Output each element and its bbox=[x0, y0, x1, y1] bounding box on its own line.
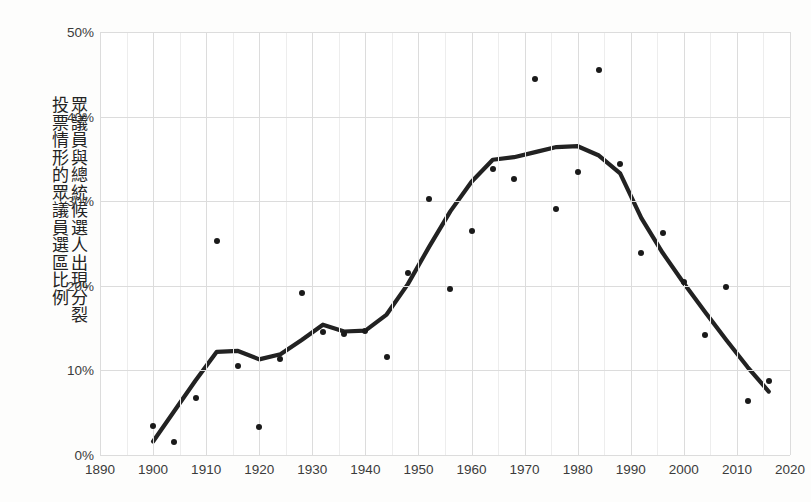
gridline-vertical bbox=[259, 32, 260, 455]
x-axis-tick-label: 1940 bbox=[350, 462, 380, 477]
gridline-vertical bbox=[153, 32, 154, 455]
gridline-vertical-minor bbox=[551, 32, 552, 455]
gridline-vertical bbox=[418, 32, 419, 455]
data-point bbox=[660, 230, 666, 236]
data-point bbox=[745, 398, 751, 404]
gridline-vertical bbox=[737, 32, 738, 455]
data-point bbox=[214, 238, 220, 244]
gridline-vertical bbox=[684, 32, 685, 455]
gridline-vertical-minor bbox=[339, 32, 340, 455]
gridline-vertical-minor bbox=[180, 32, 181, 455]
gridline-vertical-minor bbox=[710, 32, 711, 455]
data-point bbox=[426, 196, 432, 202]
chart-container: 眾議員與總統候選人出現分裂 投票情形的眾議員選區比例 0%10%20%30%40… bbox=[0, 0, 811, 502]
gridline-vertical-minor bbox=[392, 32, 393, 455]
x-axis-tick-label: 1950 bbox=[403, 462, 433, 477]
x-axis-tick-label: 1980 bbox=[563, 462, 593, 477]
y-axis-tick-labels: 0%10%20%30%40%50% bbox=[0, 0, 94, 502]
gridline-horizontal bbox=[100, 201, 790, 202]
gridline-vertical bbox=[312, 32, 313, 455]
data-point bbox=[299, 290, 305, 296]
x-axis-tick-label: 1930 bbox=[297, 462, 327, 477]
y-axis-tick-label: 50% bbox=[67, 25, 94, 40]
data-point bbox=[702, 332, 708, 338]
plot-area bbox=[100, 32, 790, 455]
gridline-horizontal bbox=[100, 370, 790, 371]
y-axis-tick-label: 10% bbox=[67, 363, 94, 378]
gridline-vertical bbox=[100, 32, 101, 455]
y-axis-tick-label: 30% bbox=[67, 194, 94, 209]
gridline-vertical bbox=[525, 32, 526, 455]
gridline-vertical-minor bbox=[498, 32, 499, 455]
gridline-vertical bbox=[578, 32, 579, 455]
gridline-vertical-minor bbox=[763, 32, 764, 455]
x-axis-tick-label: 1960 bbox=[457, 462, 487, 477]
gridline-vertical-minor bbox=[657, 32, 658, 455]
x-axis-tick-label: 1890 bbox=[85, 462, 115, 477]
gridline-vertical bbox=[472, 32, 473, 455]
data-point bbox=[405, 270, 411, 276]
gridline-vertical bbox=[631, 32, 632, 455]
data-point bbox=[384, 354, 390, 360]
y-axis-tick-label: 0% bbox=[74, 448, 94, 463]
x-axis-tick-label: 1970 bbox=[510, 462, 540, 477]
gridline-vertical-minor bbox=[233, 32, 234, 455]
x-axis-tick-label: 2000 bbox=[669, 462, 699, 477]
data-point bbox=[193, 395, 199, 401]
gridline-vertical bbox=[365, 32, 366, 455]
gridline-vertical-minor bbox=[127, 32, 128, 455]
gridline-vertical-minor bbox=[286, 32, 287, 455]
data-point bbox=[469, 228, 475, 234]
gridline-horizontal bbox=[100, 117, 790, 118]
y-axis-tick-label: 20% bbox=[67, 278, 94, 293]
gridline-horizontal bbox=[100, 32, 790, 33]
x-axis-tick-label: 1990 bbox=[616, 462, 646, 477]
x-axis-tick-label: 1920 bbox=[244, 462, 274, 477]
gridline-vertical-minor bbox=[604, 32, 605, 455]
x-axis-tick-label: 2010 bbox=[722, 462, 752, 477]
gridline-vertical-minor bbox=[445, 32, 446, 455]
gridline-horizontal bbox=[100, 455, 790, 456]
x-axis-tick-label: 1900 bbox=[138, 462, 168, 477]
data-point bbox=[532, 76, 538, 82]
data-point bbox=[490, 166, 496, 172]
data-point bbox=[596, 67, 602, 73]
x-axis-tick-label: 2020 bbox=[775, 462, 805, 477]
x-axis-tick-label: 1910 bbox=[191, 462, 221, 477]
gridline-vertical bbox=[790, 32, 791, 455]
gridline-vertical bbox=[206, 32, 207, 455]
y-axis-tick-label: 40% bbox=[67, 109, 94, 124]
gridline-horizontal bbox=[100, 286, 790, 287]
